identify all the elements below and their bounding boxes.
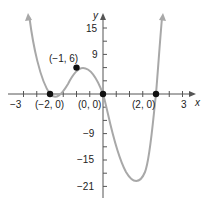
point-minus2-0 bbox=[47, 91, 53, 97]
point-2-0 bbox=[153, 91, 159, 97]
function-graph: y x 15 9 −9 −15 −21 −3 3 (−2, 0) (−1, 6)… bbox=[0, 0, 204, 202]
point-0-0 bbox=[100, 91, 106, 97]
y-tick-label-minus21: −21 bbox=[77, 181, 94, 192]
y-tick-label-minus9: −9 bbox=[83, 128, 95, 139]
point-label-2-0: (2, 0) bbox=[132, 99, 155, 110]
x-tick-label-3: 3 bbox=[181, 99, 187, 110]
y-tick-label-15: 15 bbox=[86, 23, 98, 34]
x-axis-label: x bbox=[194, 97, 201, 108]
y-axis-label: y bbox=[92, 10, 99, 21]
y-tick-label-minus15: −15 bbox=[77, 154, 94, 165]
point-minus1-6 bbox=[73, 64, 79, 70]
curve-left-arrow-icon bbox=[25, 13, 32, 21]
point-label-minus2-0: (−2, 0) bbox=[35, 99, 64, 110]
curve-right-arrow-icon bbox=[159, 13, 166, 21]
y-tick-label-9: 9 bbox=[92, 49, 98, 60]
point-label-minus1-6: (−1, 6) bbox=[49, 53, 78, 64]
point-label-0-0: (0, 0) bbox=[78, 99, 101, 110]
x-tick-label-minus3: −3 bbox=[10, 99, 22, 110]
y-axis-arrow-icon bbox=[100, 13, 106, 20]
